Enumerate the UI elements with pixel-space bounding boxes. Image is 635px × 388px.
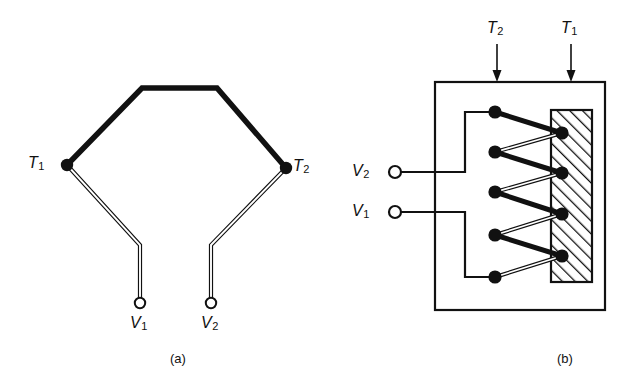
terminal-circle-v1-panel-b	[389, 206, 401, 218]
lead-v2-panel-b	[401, 112, 495, 172]
metal-a-wire-panel-a	[67, 88, 286, 168]
label-v2-panel-a: V2	[201, 315, 218, 332]
label-t2-panel-b: T2	[487, 20, 503, 37]
junction-dot-t1	[61, 159, 73, 171]
caption-panel-a: (a)	[170, 352, 186, 365]
arrow-t1	[567, 44, 576, 82]
label-v1-panel-b: V1	[352, 203, 369, 220]
label-v1-panel-a: V1	[130, 315, 147, 332]
lead-v1-panel-b	[401, 212, 495, 277]
metal-b-lead-v1-outer	[67, 165, 140, 298]
label-t2-panel-a: T2	[293, 158, 309, 175]
label-t1-panel-a: T1	[28, 155, 44, 172]
metal-b-lead-v2-core	[211, 168, 286, 298]
terminal-circle-v1	[135, 298, 145, 308]
cold-junction-dots	[488, 105, 501, 283]
figure-thermocouple-thermopile: T1 T2 V1 V2 (a) T2 T1 V2 V1 (b)	[0, 0, 635, 388]
label-v2-panel-b: V2	[352, 163, 369, 180]
caption-panel-b: (b)	[557, 352, 573, 365]
terminal-circle-v2	[206, 298, 216, 308]
junction-dot-t2	[280, 162, 292, 174]
arrow-t2	[493, 44, 502, 82]
label-t1-panel-b: T1	[561, 20, 577, 37]
panel-a-drawing	[0, 0, 635, 388]
terminal-circle-v2-panel-b	[389, 166, 401, 178]
